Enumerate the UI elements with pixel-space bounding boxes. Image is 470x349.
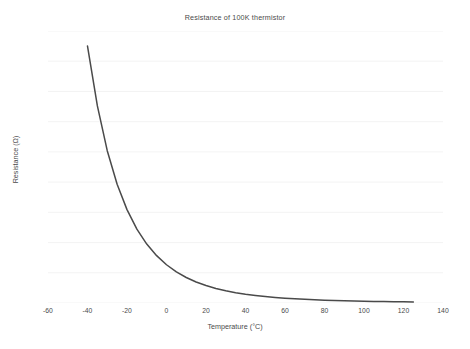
chart-title: Resistance of 100K thermistor <box>0 13 470 22</box>
x-axis-label: Temperature (°C) <box>0 322 470 331</box>
x-tick-label: -60 <box>28 307 68 314</box>
x-tick-label: 60 <box>265 307 305 314</box>
x-axis-ticks: -60-40-20020406080100120140 <box>48 307 443 319</box>
x-tick-label: -40 <box>68 307 108 314</box>
x-tick-label: 0 <box>147 307 187 314</box>
x-tick-label: 100 <box>344 307 384 314</box>
chart-figure: Resistance of 100K thermistor 0500100015… <box>0 0 470 349</box>
y-axis-label: Resistance (Ω) <box>11 105 20 215</box>
x-tick-label: 40 <box>226 307 266 314</box>
x-tick-label: 140 <box>423 307 463 314</box>
x-tick-label: 80 <box>305 307 345 314</box>
x-tick-label: 20 <box>186 307 226 314</box>
x-tick-label: -20 <box>107 307 147 314</box>
y-axis-ticks: 050010001500200025003000350040004500 <box>0 31 470 303</box>
x-tick-label: 120 <box>384 307 424 314</box>
